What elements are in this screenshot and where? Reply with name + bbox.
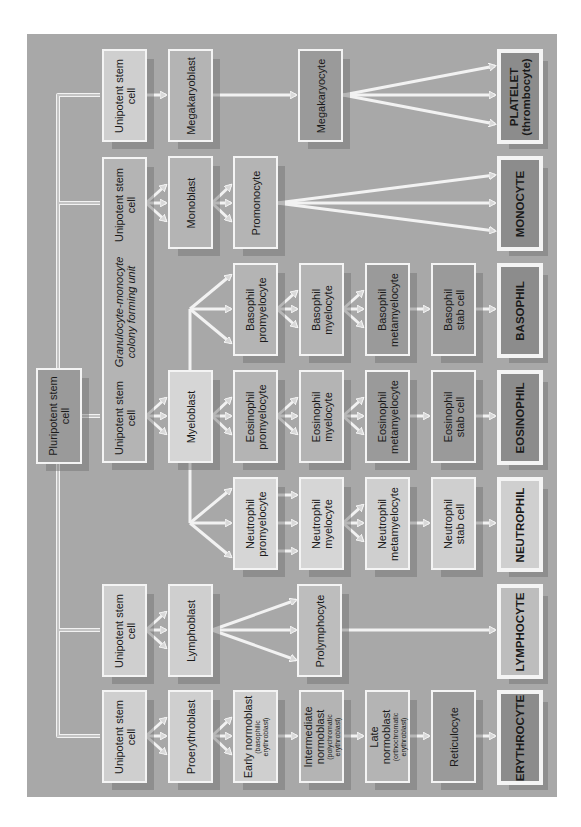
node-platelet: PLATELET (thrombocyte) xyxy=(497,49,543,144)
node-eosinophil-promyelocyte: Eosinophil promyelocyte xyxy=(233,370,278,463)
node-early-normoblast: Early normoblast (basophilic erythroblas… xyxy=(233,690,278,783)
node-basophil-myelocyte: Basophil myelocyte xyxy=(299,263,344,356)
node-granulocyte-monocyte-cfu: Unipotent stem cell Granulocyte-monocyte… xyxy=(102,157,147,463)
node-label: PLATELET (thrombocyte) xyxy=(508,58,532,135)
node-basophil-promyelocyte: Basophil promyelocyte xyxy=(233,263,278,356)
node-label: Eosinophil stab cell xyxy=(442,387,466,447)
node-erythrocyte: ERYTHROCYTE xyxy=(497,690,543,785)
node-label: MONOCYTE xyxy=(514,170,526,236)
node-label: Basophil promyelocyte xyxy=(244,270,268,350)
node-label: Neutrophil metamyelocyte xyxy=(376,481,400,566)
node-label: Early normoblast (basophilic erythroblas… xyxy=(242,695,270,778)
node-megakaryocyte: Megakaryocyte xyxy=(298,49,343,142)
node-label: Basophil stab cell xyxy=(442,280,466,340)
node-lymphoblast: Lymphoblast xyxy=(168,584,213,677)
platelet-subtitle: (thrombocyte) xyxy=(520,58,532,135)
node-eosinophil-metamyelocyte: Eosinophil metamyelocyte xyxy=(365,370,410,463)
node-label: Unipotent stem cell xyxy=(113,591,137,671)
node-label: Monoblast xyxy=(185,177,197,228)
node-basophil: BASOPHIL xyxy=(497,263,543,358)
node-label: ERYTHROCYTE xyxy=(514,694,526,780)
node-label: EOSINOPHIL xyxy=(514,382,526,453)
node-label: Eosinophil myelocyte xyxy=(310,382,334,452)
node-label: LYMPHOCYTE xyxy=(514,592,526,671)
node-label: Megakaryocyte xyxy=(315,58,327,133)
early-normoblast-subtitle: (basophilic erythroblast) xyxy=(254,712,270,762)
node-label: Intermediate normoblast (polychromatic e… xyxy=(302,697,342,777)
node-monoblast: Monoblast xyxy=(168,156,213,249)
node-label: Myeloblast xyxy=(185,390,197,443)
gm-unit-line2: colony forming unit xyxy=(125,266,137,358)
node-label: Basophil myelocyte xyxy=(310,275,334,345)
node-pluripotent-stem-cell: Pluripotent stem cell xyxy=(36,368,82,464)
node-eosinophil-stab-cell: Eosinophil stab cell xyxy=(431,370,476,463)
node-neutrophil-metamyelocyte: Neutrophil metamyelocyte xyxy=(365,477,410,570)
node-prolymphocyte: Prolymphocyte xyxy=(297,584,342,677)
node-reticulocyte: Reticulocyte xyxy=(431,690,476,783)
node-unipotent-erythrocyte: Unipotent stem cell xyxy=(102,690,147,783)
node-unipotent-lymphocyte: Unipotent stem cell xyxy=(102,584,147,677)
node-label: Late normoblast (orthochromatic erythrob… xyxy=(368,702,408,772)
gm-unit-line1: Granulocyte-monocyte xyxy=(113,257,125,368)
late-normoblast-title: Late normoblast xyxy=(368,709,392,763)
node-label: Unipotent stem cell xyxy=(113,378,137,458)
node-label: Neutrophil stab cell xyxy=(442,494,466,554)
node-eosinophil: EOSINOPHIL xyxy=(497,370,543,465)
node-label: NEUTROPHIL xyxy=(514,487,526,562)
node-promonocyte: Promonocyte xyxy=(233,156,278,249)
intermediate-normoblast-subtitle: (polychromatic erythroblast) xyxy=(326,712,342,762)
early-normoblast-title: Early normoblast xyxy=(242,695,254,778)
node-neutrophil-myelocyte: Neutrophil myelocyte xyxy=(299,477,344,570)
node-neutrophil-stab-cell: Neutrophil stab cell xyxy=(431,477,476,570)
node-proerythroblast: Proerythroblast xyxy=(168,690,213,783)
node-label: Eosinophil metamyelocyte xyxy=(376,374,400,459)
node-monocyte: MONOCYTE xyxy=(497,156,543,251)
node-myeloblast: Myeloblast xyxy=(168,370,213,463)
platelet-title: PLATELET xyxy=(508,67,520,126)
node-label: Proerythroblast xyxy=(185,699,197,774)
node-basophil-stab-cell: Basophil stab cell xyxy=(431,263,476,356)
late-normoblast-subtitle: (orthochromatic erythroblast) xyxy=(392,712,408,762)
node-late-normoblast: Late normoblast (orthochromatic erythrob… xyxy=(365,690,410,783)
gm-unit-label: Granulocyte-monocyte colony forming unit xyxy=(113,257,137,368)
node-label: Lymphoblast xyxy=(185,600,197,662)
node-label: Basophil metamyelocyte xyxy=(376,267,400,352)
node-megakaryoblast: Megakaryoblast xyxy=(168,49,213,142)
node-label: Neutrophil promyelocyte xyxy=(244,484,268,564)
node-eosinophil-myelocyte: Eosinophil myelocyte xyxy=(299,370,344,463)
node-label: Eosinophil promyelocyte xyxy=(244,377,268,457)
node-label: Megakaryoblast xyxy=(185,57,197,135)
node-label: BASOPHIL xyxy=(514,281,526,340)
node-label: Pluripotent stem cell xyxy=(47,376,71,456)
node-neutrophil: NEUTROPHIL xyxy=(497,477,543,572)
node-label: Unipotent stem cell xyxy=(113,697,137,777)
node-label: Unipotent stem cell xyxy=(113,56,137,136)
node-neutrophil-promyelocyte: Neutrophil promyelocyte xyxy=(233,477,278,570)
node-label: Promonocyte xyxy=(250,170,262,235)
node-label: Unipotent stem cell xyxy=(113,165,137,245)
node-intermediate-normoblast: Intermediate normoblast (polychromatic e… xyxy=(299,690,344,783)
intermediate-normoblast-title: Intermediate normoblast xyxy=(302,706,326,767)
node-lymphocyte: LYMPHOCYTE xyxy=(497,584,543,679)
node-label: Prolymphocyte xyxy=(314,594,326,667)
node-unipotent-platelet: Unipotent stem cell xyxy=(102,49,147,142)
node-label: Reticulocyte xyxy=(448,707,460,767)
node-basophil-metamyelocyte: Basophil metamyelocyte xyxy=(365,263,410,356)
node-label: Neutrophil myelocyte xyxy=(310,489,334,559)
